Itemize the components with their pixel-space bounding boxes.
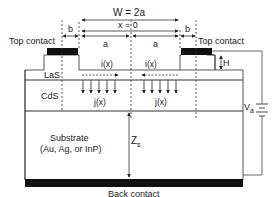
- battery-icon: [256, 104, 268, 116]
- width-label: W = 2a: [113, 7, 145, 18]
- back-contact: [25, 179, 243, 187]
- voltage-label: Va: [244, 102, 254, 114]
- b-right-label: b: [185, 24, 190, 34]
- current-i-left-label: i(x): [101, 59, 113, 69]
- device-cross-section-diagram: W = 2a x = 0 a a b b Top contact Top con…: [0, 0, 277, 197]
- layer-cds-label: CdS: [41, 91, 59, 101]
- substrate-label: Substrate: [50, 133, 89, 143]
- height-label: H: [223, 58, 230, 68]
- back-contact-label: Back contact: [108, 189, 160, 197]
- external-circuit-wire-bottom: [243, 116, 262, 175]
- top-contact-right-label: Top contact: [198, 36, 245, 46]
- substrate-material-label: (Au, Ag, or InP): [40, 144, 102, 154]
- a-left-label: a: [103, 39, 108, 49]
- b-left-label: b: [68, 24, 73, 34]
- top-contact-left-label: Top contact: [9, 36, 56, 46]
- a-right-label: a: [153, 39, 158, 49]
- current-i-right-label: i(x): [145, 59, 157, 69]
- layer-las-label: LaS: [44, 70, 60, 80]
- substrate-depth-label: Zs: [131, 135, 141, 148]
- current-j-left-label: j(x): [93, 97, 106, 107]
- device-outline-right: [180, 55, 181, 70]
- top-contact-right: [181, 48, 212, 55]
- center-label: x = 0: [118, 20, 138, 30]
- current-j-right-label: j(x): [154, 97, 167, 107]
- vertical-current-arrows-left: [83, 80, 115, 93]
- top-contact-left: [47, 48, 78, 55]
- external-circuit-wire: [212, 51, 262, 104]
- device-outline-right-step: [212, 55, 243, 180]
- vertical-current-arrows-right: [144, 80, 176, 93]
